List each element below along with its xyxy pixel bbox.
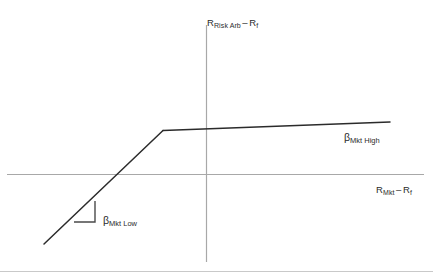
x-axis-label-subscript-2: f [410,189,412,196]
y-axis-label-operator: – [241,17,249,28]
x-axis-label-base: R [376,184,383,195]
x-axis-label-subscript-1: Mkt [383,189,395,196]
y-axis-label: RRisk Arb–Rf [207,17,258,29]
beta-mkt-low-annotation: βMkt Low [103,214,137,228]
risk-arbitrage-payoff-figure: RRisk Arb–Rf RMkt–Rf βMkt High βMkt Low [0,0,433,276]
beta-mkt-high-subscript: Mkt High [350,136,380,145]
payoff-line-high-beta-segment [163,122,390,131]
x-axis-label: RMkt–Rf [376,184,412,196]
y-axis-label-base: R [207,17,214,28]
beta-mkt-high-annotation: βMkt High [344,131,380,145]
x-axis-label-base-2: R [403,184,410,195]
x-axis-label-operator: – [395,184,403,195]
y-axis-label-subscript-1: Risk Arb [214,22,241,29]
beta-mkt-low-subscript: Mkt Low [109,219,137,228]
y-axis-label-subscript-2: f [256,22,258,29]
